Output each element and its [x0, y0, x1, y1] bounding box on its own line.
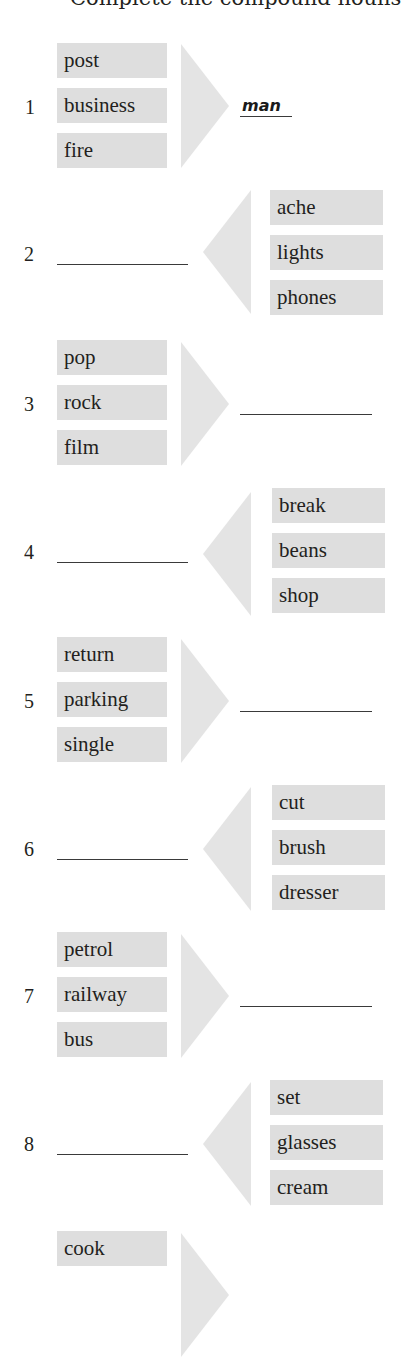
word-box: return	[57, 637, 167, 672]
exercise-number: 1	[25, 97, 35, 117]
arrow-right-icon	[181, 342, 229, 466]
answer-field[interactable]: man	[240, 91, 292, 117]
exercise-number: 7	[24, 986, 34, 1006]
word-box: cream	[270, 1170, 383, 1205]
word-box: film	[57, 430, 167, 465]
arrow-left-icon	[203, 1082, 251, 1206]
word-box: set	[270, 1080, 383, 1115]
exercise-number: 2	[24, 244, 34, 264]
word-box: cut	[272, 785, 385, 820]
word-box: dresser	[272, 875, 385, 910]
word-box: rock	[57, 385, 167, 420]
exercise-9: cook	[0, 1231, 385, 1357]
word-box: bus	[57, 1022, 167, 1057]
word-box: break	[272, 488, 385, 523]
exercise-number: 4	[24, 542, 34, 562]
answer-field[interactable]	[57, 834, 188, 860]
arrow-right-icon	[181, 44, 229, 168]
word-box: brush	[272, 830, 385, 865]
word-box: railway	[57, 977, 167, 1012]
word-box: lights	[270, 235, 383, 270]
exercise-3: pop 3 rock film	[0, 340, 385, 466]
exercise-6: 6 cut brush dresser	[0, 785, 385, 911]
word-box: business	[57, 88, 167, 123]
exercise-7: petrol 7 railway bus	[0, 932, 385, 1058]
answer-field[interactable]	[240, 389, 372, 415]
word-box: petrol	[57, 932, 167, 967]
instruction-text: Complete the compound nouns	[70, 0, 401, 10]
word-box: beans	[272, 533, 385, 568]
word-box: pop	[57, 340, 167, 375]
exercise-8: 8 set glasses cream	[0, 1080, 385, 1206]
exercise-number: 3	[24, 394, 34, 414]
exercise-number: 6	[24, 839, 34, 859]
word-box: parking	[57, 682, 167, 717]
answer-field[interactable]	[240, 981, 372, 1007]
arrow-right-icon	[181, 934, 229, 1058]
exercise-2: 2 ache lights phones	[0, 190, 385, 316]
arrow-left-icon	[203, 787, 251, 911]
arrow-left-icon	[203, 190, 251, 314]
word-box: post	[57, 43, 167, 78]
word-box: shop	[272, 578, 385, 613]
word-box: cook	[57, 1231, 167, 1266]
arrow-right-icon	[181, 639, 229, 763]
exercise-1: post 1 business fire man	[0, 43, 385, 169]
answer-field[interactable]	[57, 1129, 188, 1155]
exercise-number: 8	[24, 1134, 34, 1154]
exercise-4: 4 break beans shop	[0, 488, 385, 614]
answer-text: man	[242, 97, 281, 115]
arrow-right-icon	[181, 1233, 229, 1357]
word-box: fire	[57, 133, 167, 168]
answer-field[interactable]	[240, 686, 372, 712]
word-box: ache	[270, 190, 383, 225]
arrow-left-icon	[203, 492, 251, 616]
answer-field[interactable]	[57, 239, 188, 265]
exercise-5: return 5 parking single	[0, 637, 385, 763]
exercise-number: 5	[24, 691, 34, 711]
answer-field[interactable]	[57, 537, 188, 563]
word-box: phones	[270, 280, 383, 315]
word-box: glasses	[270, 1125, 383, 1160]
word-box: single	[57, 727, 167, 762]
